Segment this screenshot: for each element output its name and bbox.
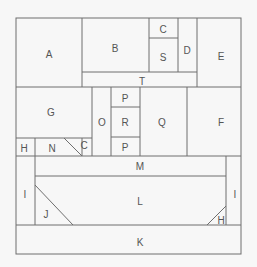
label-P-top: P — [122, 93, 129, 104]
label-C-top: C — [159, 24, 166, 35]
label-Q: Q — [158, 117, 166, 128]
label-H-left: H — [20, 143, 27, 154]
floor-plan-diagram: A B C S D E T G O P R P Q F H N C M I I … — [0, 0, 257, 267]
label-N: N — [48, 143, 55, 154]
label-I-left: I — [24, 189, 27, 200]
label-B: B — [112, 43, 119, 54]
label-S: S — [160, 52, 167, 63]
label-E: E — [218, 51, 225, 62]
label-O: O — [98, 117, 106, 128]
label-F: F — [218, 117, 224, 128]
label-I-right: I — [234, 189, 237, 200]
label-C-small: C — [80, 140, 87, 151]
label-G: G — [47, 107, 55, 118]
label-L: L — [137, 196, 143, 207]
label-M: M — [136, 161, 144, 172]
label-K: K — [137, 237, 144, 248]
label-H-right: H — [217, 215, 224, 226]
label-A: A — [46, 49, 53, 60]
label-P-bottom: P — [122, 142, 129, 153]
label-D: D — [183, 45, 190, 56]
label-R: R — [121, 117, 128, 128]
label-T: T — [139, 76, 145, 87]
label-J: J — [44, 209, 49, 220]
